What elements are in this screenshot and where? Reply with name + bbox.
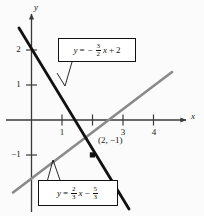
eq1-sign: − [86, 46, 93, 55]
y-tick-label-neg1: −1 [8, 150, 24, 159]
eq1-operator: + [108, 46, 115, 55]
eq1-equals: = [78, 46, 85, 55]
callout-equation-line2: y = 2 3 x − 5 3 [38, 180, 118, 206]
x-tick-label-4: 4 [148, 128, 160, 137]
eq1-variable: x [103, 46, 107, 55]
eq2-frac2-denominator: 3 [93, 194, 99, 201]
callout-equation-line1: y = − 3 2 x + 2 [58, 38, 136, 62]
leader-top [57, 62, 72, 86]
x-axis-label: x [191, 112, 195, 121]
eq2-lhs: y [57, 189, 61, 198]
eq2-operator: − [84, 189, 91, 198]
eq1-frac-denominator: 2 [96, 51, 102, 58]
eq2-frac1-denominator: 3 [71, 194, 77, 201]
equation-line1: y = − 3 2 x + 2 [73, 43, 120, 58]
intersection-point-label: (2, −1) [98, 136, 123, 145]
eq2-fraction-slope: 2 3 [71, 186, 77, 201]
y-tick-label-2: 2 [13, 45, 24, 54]
x-tick-label-1: 1 [56, 128, 68, 137]
eq1-constant: 2 [116, 46, 121, 55]
equation-line2: y = 2 3 x − 5 3 [57, 186, 99, 201]
y-tick-label-1: 1 [13, 80, 24, 89]
eq1-fraction: 3 2 [96, 43, 102, 58]
graph-figure: y x 1 3 4 2 1 −1 (2, −1) y = − 3 2 x + 2… [0, 0, 204, 216]
y-axis-label: y [34, 3, 38, 12]
intersection-marker [90, 152, 95, 157]
eq2-variable: x [79, 189, 83, 198]
eq2-fraction-intercept: 5 3 [93, 186, 99, 201]
eq1-lhs: y [73, 46, 77, 55]
eq2-equals: = [62, 189, 69, 198]
